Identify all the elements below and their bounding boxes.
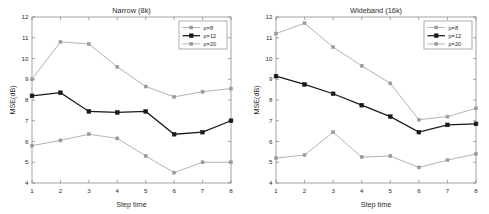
series-p12 — [30, 91, 233, 136]
x-tick-label: 1 — [30, 187, 34, 194]
series-line — [32, 42, 231, 97]
data-point-marker — [303, 153, 306, 156]
legend-marker — [190, 42, 193, 45]
data-point-marker — [275, 157, 278, 160]
data-point-marker — [360, 156, 363, 159]
data-point-marker — [116, 137, 119, 140]
data-point-marker — [446, 159, 449, 162]
x-axis-label: Step time — [116, 200, 146, 209]
data-point-marker — [116, 65, 119, 68]
series-line — [276, 132, 476, 167]
legend-marker — [434, 34, 438, 38]
data-point-marker — [59, 40, 62, 43]
y-tick-label: 9 — [269, 75, 273, 82]
data-point-marker — [172, 132, 176, 136]
series-line — [32, 93, 231, 135]
data-point-marker — [144, 85, 147, 88]
x-tick-label: 1 — [274, 187, 278, 194]
legend-label: p=8 — [204, 25, 214, 31]
figure-container: 45678910111212345678Narrow (8k)Step time… — [0, 0, 489, 214]
x-tick-label: 4 — [360, 187, 364, 194]
legend-marker — [190, 26, 193, 29]
y-tick-label: 4 — [269, 179, 273, 186]
legend-label: p=12 — [449, 33, 462, 39]
y-tick-label: 6 — [25, 138, 29, 145]
data-point-marker — [173, 171, 176, 174]
x-tick-label: 4 — [116, 187, 120, 194]
x-tick-label: 8 — [474, 187, 478, 194]
y-tick-label: 5 — [269, 158, 273, 165]
x-tick-label: 7 — [201, 187, 205, 194]
data-point-marker — [31, 78, 34, 81]
y-tick-label: 11 — [22, 34, 29, 41]
data-point-marker — [417, 118, 420, 121]
legend-marker — [189, 34, 193, 38]
data-point-marker — [275, 32, 278, 35]
data-point-marker — [360, 103, 364, 107]
data-point-marker — [332, 131, 335, 134]
data-point-marker — [230, 87, 233, 90]
x-tick-label: 5 — [144, 187, 148, 194]
y-tick-label: 11 — [266, 34, 273, 41]
legend-marker — [435, 26, 438, 29]
x-tick-label: 6 — [417, 187, 421, 194]
series-p12 — [274, 74, 478, 134]
y-tick-label: 12 — [22, 13, 29, 20]
data-point-marker — [87, 42, 90, 45]
data-point-marker — [389, 82, 392, 85]
data-point-marker — [59, 139, 62, 142]
y-tick-label: 8 — [25, 96, 29, 103]
data-point-marker — [230, 161, 233, 164]
data-point-marker — [229, 119, 233, 123]
data-point-marker — [31, 144, 34, 147]
data-point-marker — [274, 74, 278, 78]
y-tick-label: 10 — [266, 55, 273, 62]
x-axis-label: Step time — [361, 200, 391, 209]
legend-label: p=20 — [204, 41, 217, 47]
data-point-marker — [173, 95, 176, 98]
chart-panel-wideband: 45678910111212345678Wideband (16k)Step t… — [244, 0, 488, 214]
y-tick-label: 4 — [25, 179, 29, 186]
panel-title: Narrow (8k) — [112, 6, 151, 15]
data-point-marker — [303, 22, 306, 25]
data-point-marker — [446, 115, 449, 118]
y-tick-label: 12 — [266, 13, 273, 20]
x-tick-label: 5 — [389, 187, 393, 194]
y-tick-label: 9 — [25, 75, 29, 82]
data-point-marker — [144, 155, 147, 158]
y-tick-label: 7 — [269, 117, 273, 124]
x-tick-label: 2 — [59, 187, 63, 194]
chart-svg-narrow: 45678910111212345678Narrow (8k)Step time… — [0, 0, 244, 214]
y-tick-label: 6 — [269, 138, 273, 145]
x-tick-label: 3 — [87, 187, 91, 194]
data-point-marker — [30, 94, 34, 98]
data-point-marker — [115, 111, 119, 115]
series-p20 — [31, 133, 233, 174]
data-point-marker — [446, 123, 450, 127]
x-tick-label: 6 — [172, 187, 176, 194]
legend-marker — [435, 42, 438, 45]
data-point-marker — [332, 46, 335, 49]
x-tick-label: 3 — [331, 187, 335, 194]
data-point-marker — [389, 155, 392, 158]
x-tick-label: 2 — [303, 187, 307, 194]
data-point-marker — [87, 133, 90, 136]
data-point-marker — [303, 83, 307, 87]
data-point-marker — [474, 122, 478, 126]
data-point-marker — [360, 64, 363, 67]
y-tick-label: 7 — [25, 117, 29, 124]
y-axis-label: MSE(dB) — [8, 85, 17, 114]
data-point-marker — [144, 110, 148, 114]
data-point-marker — [388, 115, 392, 119]
x-tick-label: 7 — [446, 187, 450, 194]
y-tick-label: 10 — [22, 55, 29, 62]
data-point-marker — [59, 91, 63, 95]
data-point-marker — [475, 107, 478, 110]
data-point-marker — [417, 130, 421, 134]
legend-label: p=12 — [204, 33, 217, 39]
data-point-marker — [331, 92, 335, 96]
data-point-marker — [417, 166, 420, 169]
data-point-marker — [201, 161, 204, 164]
x-tick-label: 8 — [229, 187, 233, 194]
y-tick-label: 8 — [269, 96, 273, 103]
